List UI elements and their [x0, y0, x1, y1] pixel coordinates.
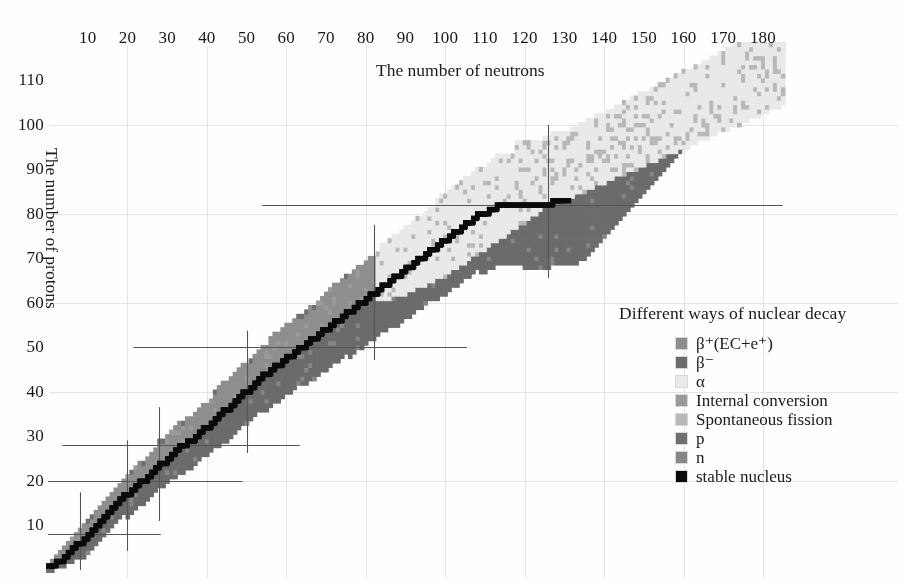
- legend-label-ic: Internal conversion: [696, 392, 828, 409]
- y-tick-label: 70: [6, 248, 44, 268]
- legend-item: α: [675, 372, 897, 391]
- y-tick-label: 100: [6, 115, 44, 135]
- legend-label-sf: Spontaneous fission: [696, 411, 832, 428]
- y-axis-title: The number of protons: [41, 148, 62, 309]
- x-tick-label: 50: [238, 28, 255, 48]
- legend-item-list: β⁺(EC+e⁺)β⁻αInternal conversionSpontaneo…: [675, 334, 897, 486]
- x-tick-label: 40: [198, 28, 215, 48]
- legend-swatch-sf: [675, 413, 688, 426]
- nuclide-chart-canvas: [0, 0, 904, 583]
- legend-label-beta_plus: β⁺(EC+e⁺): [696, 335, 773, 352]
- x-tick-label: 80: [357, 28, 374, 48]
- legend-swatch-alpha: [675, 375, 688, 388]
- nuclide-chart-figure: 1020304050607080901001101201301401501601…: [0, 0, 904, 583]
- legend-label-alpha: α: [696, 373, 705, 390]
- x-tick-label: 120: [512, 28, 538, 48]
- y-tick-label: 30: [6, 426, 44, 446]
- legend-label-stable: stable nucleus: [696, 468, 792, 485]
- legend-item: n: [675, 448, 897, 467]
- x-tick-label: 150: [631, 28, 657, 48]
- legend-title: Different ways of nuclear decay: [619, 303, 897, 324]
- y-tick-label: 50: [6, 337, 44, 357]
- legend-item: β⁻: [675, 353, 897, 372]
- x-axis-title: The number of neutrons: [376, 60, 545, 81]
- legend-label-proton: p: [696, 430, 705, 447]
- legend-label-neutron: n: [696, 449, 705, 466]
- y-tick-label: 60: [6, 293, 44, 313]
- x-tick-label: 70: [317, 28, 334, 48]
- legend-label-beta_minus: β⁻: [696, 354, 714, 371]
- x-tick-label: 20: [119, 28, 136, 48]
- legend-swatch-stable: [675, 470, 688, 483]
- x-tick-label: 140: [591, 28, 617, 48]
- x-tick-label: 130: [551, 28, 577, 48]
- legend-item: Internal conversion: [675, 391, 897, 410]
- y-tick-label: 80: [6, 204, 44, 224]
- y-tick-label: 90: [6, 159, 44, 179]
- x-tick-label: 100: [432, 28, 458, 48]
- legend-swatch-beta_minus: [675, 356, 688, 369]
- x-tick-label: 10: [79, 28, 96, 48]
- y-tick-label: 20: [6, 471, 44, 491]
- legend-swatch-ic: [675, 394, 688, 407]
- x-tick-label: 160: [670, 28, 696, 48]
- legend: Different ways of nuclear decay β⁺(EC+e⁺…: [619, 303, 897, 486]
- y-tick-label: 110: [6, 70, 44, 90]
- legend-item: p: [675, 429, 897, 448]
- y-tick-label: 40: [6, 382, 44, 402]
- x-tick-label: 90: [397, 28, 414, 48]
- x-tick-label: 180: [750, 28, 776, 48]
- legend-swatch-proton: [675, 432, 688, 445]
- x-tick-label: 30: [158, 28, 175, 48]
- legend-item: stable nucleus: [675, 467, 897, 486]
- y-tick-label: 10: [6, 515, 44, 535]
- x-tick-label: 110: [472, 28, 497, 48]
- legend-item: β⁺(EC+e⁺): [675, 334, 897, 353]
- legend-swatch-neutron: [675, 451, 688, 464]
- x-tick-label: 60: [278, 28, 295, 48]
- legend-swatch-beta_plus: [675, 337, 688, 350]
- x-tick-label: 170: [710, 28, 736, 48]
- legend-item: Spontaneous fission: [675, 410, 897, 429]
